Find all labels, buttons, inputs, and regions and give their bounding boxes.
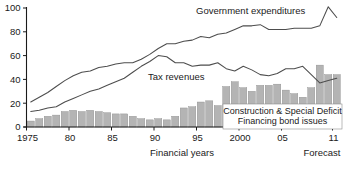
forecast-note: Forecast <box>304 147 341 158</box>
bar <box>61 112 68 127</box>
bar <box>53 115 60 127</box>
bar <box>104 113 111 127</box>
government-finance-chart: 02040608010019758085909520000511 Governm… <box>0 0 345 169</box>
bar <box>163 120 170 127</box>
x-tick-label: 1975 <box>17 132 38 143</box>
y-tick-label: 40 <box>10 74 21 85</box>
y-tick-label: 0 <box>15 121 20 132</box>
bar <box>36 119 43 127</box>
bar <box>87 110 94 127</box>
x-tick-label: 05 <box>277 132 288 143</box>
annotation-tax-revenues: Tax revenues <box>148 71 205 82</box>
x-axis-title: Financial years <box>150 147 214 158</box>
bar <box>95 112 102 127</box>
x-tick-label: 2000 <box>229 132 250 143</box>
y-tick-label: 100 <box>5 2 21 13</box>
bar <box>129 116 136 127</box>
bar <box>180 108 187 127</box>
label-government-expenditures: Government expenditures <box>196 5 306 16</box>
bar <box>70 110 77 127</box>
x-tick-label: 95 <box>192 132 203 143</box>
chart-figure: 02040608010019758085909520000511 Governm… <box>0 0 345 169</box>
bar <box>146 120 153 127</box>
label-bond-issues-line1: Construction & Special Deficit <box>223 106 342 116</box>
x-tick-label: 11 <box>329 132 339 143</box>
annotation-government-expenditures: Government expenditures <box>196 5 306 16</box>
x-tick-label: 80 <box>65 132 76 143</box>
bar <box>189 107 196 127</box>
bar <box>27 121 34 127</box>
bar <box>214 106 221 127</box>
y-tick-label: 80 <box>10 26 21 37</box>
bar <box>78 112 85 127</box>
bar <box>121 114 128 127</box>
x-tick-label: 90 <box>150 132 161 143</box>
label-bond-issues-line2: Financing bond issues <box>238 116 328 126</box>
bar <box>155 119 162 127</box>
bar <box>138 119 145 127</box>
bar <box>206 101 213 127</box>
bar <box>197 102 204 127</box>
y-tick-label: 20 <box>10 98 21 109</box>
line-government-expenditures <box>31 7 337 102</box>
label-tax-revenues: Tax revenues <box>148 71 205 82</box>
y-tick-label: 60 <box>10 50 21 61</box>
annotation-bond-issues-box: Construction & Special Deficit Financing… <box>223 104 342 129</box>
bar <box>172 116 179 127</box>
bar <box>112 114 119 127</box>
bar <box>44 116 51 127</box>
x-tick-label: 85 <box>107 132 118 143</box>
